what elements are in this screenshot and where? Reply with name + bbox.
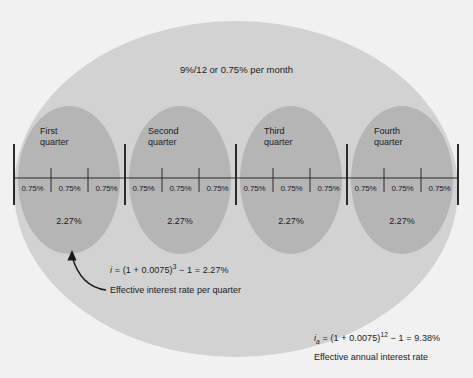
annual-formula-exponent: 12 — [380, 331, 388, 338]
quarter-label-3-line2: quarter — [264, 137, 293, 148]
quarter-label-3: Third quarter — [264, 126, 293, 149]
month-rate-8: 0.75% — [273, 184, 310, 193]
quarter-formula-body: = (1 + 0.0075) — [112, 265, 173, 275]
month-rate-9: 0.75% — [310, 184, 347, 193]
month-rate-11: 0.75% — [384, 184, 421, 193]
quarter-formula-tail: − 1 = 2.27% — [176, 265, 228, 275]
quarter-label-4-line2: quarter — [374, 137, 403, 148]
month-rate-3: 0.75% — [88, 184, 125, 193]
month-rate-12: 0.75% — [421, 184, 458, 193]
month-rate-4: 0.75% — [125, 184, 162, 193]
quarter-formula: i = (1 + 0.0075)3 − 1 = 2.27% — [110, 263, 229, 276]
month-rate-2: 0.75% — [51, 184, 88, 193]
quarter-ellipse-2 — [129, 106, 231, 254]
quarter-label-2-line1: Second — [148, 126, 179, 137]
month-rate-1: 0.75% — [14, 184, 51, 193]
quarter-label-1: First quarter — [40, 126, 69, 149]
quarter-rate-4: 2.27% — [362, 216, 442, 227]
quarter-rate-1: 2.27% — [29, 216, 109, 227]
annual-formula: ia = (1 + 0.0075)12 − 1 = 9.38% — [314, 331, 440, 346]
annual-formula-tail: − 1 = 9.38% — [388, 333, 440, 343]
quarter-label-3-line1: Third — [264, 126, 293, 137]
quarter-label-2: Second quarter — [148, 126, 179, 149]
month-rate-10: 0.75% — [347, 184, 384, 193]
month-rate-5: 0.75% — [162, 184, 199, 193]
effective-interest-rate-diagram: 9%/12 or 0.75% per month First quarter S… — [0, 0, 473, 378]
quarter-label-1-line1: First — [40, 126, 69, 137]
quarter-label-4-line1: Fourth — [374, 126, 403, 137]
quarter-rate-3: 2.27% — [251, 216, 331, 227]
annual-formula-caption: Effective annual interest rate — [314, 352, 428, 363]
quarter-label-2-line2: quarter — [148, 137, 179, 148]
quarter-ellipse-1 — [18, 106, 120, 254]
nominal-rate-note: 9%/12 or 0.75% per month — [0, 64, 473, 75]
quarter-label-1-line2: quarter — [40, 137, 69, 148]
quarter-label-4: Fourth quarter — [374, 126, 403, 149]
month-rate-7: 0.75% — [236, 184, 273, 193]
month-rate-6: 0.75% — [199, 184, 236, 193]
quarter-rate-2: 2.27% — [140, 216, 220, 227]
quarter-formula-caption: Effective interest rate per quarter — [110, 285, 241, 296]
annual-formula-body: = (1 + 0.0075) — [320, 333, 381, 343]
